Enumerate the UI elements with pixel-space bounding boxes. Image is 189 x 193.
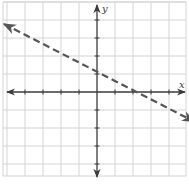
- y-axis-label: y: [101, 3, 108, 14]
- coordinate-plane: xy: [0, 0, 189, 178]
- x-axis-label: x: [179, 79, 185, 90]
